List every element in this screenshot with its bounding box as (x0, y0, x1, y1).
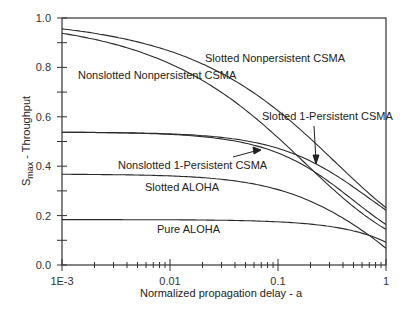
x-tick-label: 0.01 (159, 275, 180, 287)
label-nonslotted-nonpersistent-csma: Nonslotted Nonpersistent CSMA (78, 69, 237, 81)
y-tick-label: 0.4 (36, 160, 51, 172)
arrowhead-icon (253, 147, 261, 154)
throughput-chart: 0.00.20.40.60.81.0 1E-30.010.11 Slotted … (0, 0, 410, 325)
x-tick-label: 0.1 (270, 275, 285, 287)
label-slotted-1-persistent-csma: Slotted 1-Persistent CSMA (262, 110, 393, 122)
y-title-rest: - Throughput (20, 96, 32, 162)
y-axis-title: Smax - Throughput (20, 96, 35, 186)
label-nonslotted-1-persistent-csma: Nonslotted 1-Persistent CSMA (118, 159, 268, 171)
svg-text:Smax - Throughput: Smax - Throughput (20, 96, 35, 186)
y-title-main: S (20, 179, 32, 186)
x-tick-label: 1E-3 (50, 275, 73, 287)
label-slotted-nonpersistent-csma: Slotted Nonpersistent CSMA (205, 52, 346, 64)
label-slotted-aloha: Slotted ALOHA (145, 181, 220, 193)
series-line-4 (62, 174, 386, 248)
series-line-2 (62, 132, 386, 210)
y-tick-label: 0.8 (36, 61, 51, 73)
series-line-5 (62, 220, 386, 243)
y-tick-label: 1.0 (36, 12, 51, 24)
y-tick-label: 0.0 (36, 259, 51, 271)
y-tick-label: 0.2 (36, 210, 51, 222)
series-line-3 (62, 132, 386, 224)
y-tick-label: 0.6 (36, 111, 51, 123)
x-axis: 1E-30.010.11 (50, 259, 389, 287)
arrow-nonslotted-1-persistent (233, 151, 255, 157)
label-pure-aloha: Pure ALOHA (157, 223, 221, 235)
x-axis-title: Normalized propagation delay - a (140, 287, 303, 299)
y-title-subscript: max (25, 161, 35, 179)
x-tick-label: 1 (383, 275, 389, 287)
